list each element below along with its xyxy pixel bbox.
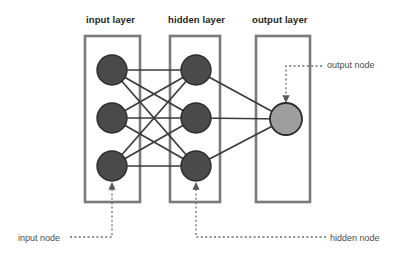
input-node-3[interactable] [97, 151, 127, 181]
output-node-1[interactable] [270, 103, 302, 135]
layer-title-input: input layer [86, 14, 135, 25]
output-layer-nodes [270, 103, 302, 135]
callout-label-output-node: output node [327, 60, 375, 70]
layer-title-hidden: hidden layer [168, 14, 225, 25]
input-node-1[interactable] [97, 55, 127, 85]
callout-line-input-node [70, 186, 112, 237]
neural-network-diagram [0, 0, 403, 255]
input-layer-nodes [97, 55, 127, 181]
callout-label-hidden-node: hidden node [330, 233, 380, 243]
diagram-canvas: input layer hidden layer output layer in… [0, 0, 403, 255]
hidden-layer-nodes [181, 55, 211, 181]
layer-title-output: output layer [252, 14, 308, 25]
callout-line-hidden-node [196, 186, 326, 237]
hidden-node-3[interactable] [181, 151, 211, 181]
input-node-2[interactable] [97, 103, 127, 133]
hidden-node-1[interactable] [181, 55, 211, 85]
callout-line-output-node [286, 66, 322, 99]
callout-label-input-node: input node [18, 233, 60, 243]
hidden-node-2[interactable] [181, 103, 211, 133]
